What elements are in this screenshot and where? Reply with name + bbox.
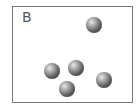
panel-label: B bbox=[22, 10, 32, 24]
particle-sphere-icon bbox=[68, 60, 84, 76]
particle-sphere-icon bbox=[86, 17, 102, 33]
particle-sphere-icon bbox=[59, 81, 75, 97]
particle-sphere-icon bbox=[96, 72, 112, 88]
particle-sphere-icon bbox=[44, 63, 60, 79]
